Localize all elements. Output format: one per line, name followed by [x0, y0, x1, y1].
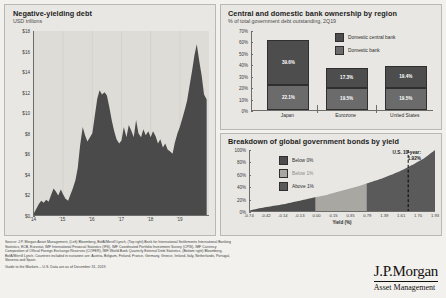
x-axis-tick: 1.39 — [380, 213, 388, 218]
x-axis-tick: 0.79 — [363, 213, 371, 218]
y-axis-tick-mark — [251, 111, 253, 112]
x-axis-tick: -0.74 — [244, 213, 254, 218]
bar-category-label: Japan — [281, 113, 294, 118]
y-axis-tick: $18 — [22, 29, 30, 34]
cum-chart-header: Breakdown of global government bonds by … — [228, 137, 399, 146]
y-axis-tick: 80% — [237, 160, 246, 165]
x-axis-tick: '19 — [177, 217, 183, 222]
y-axis-tick: $14 — [22, 70, 30, 75]
y-axis-tick: 10% — [239, 97, 248, 102]
x-axis-tick: 1.93 — [431, 213, 439, 218]
logo-tagline: Asset Management — [374, 283, 438, 292]
legend-item-domestic-central-bank: Domestic central bank — [335, 33, 395, 42]
x-axis-tick: '14 — [30, 217, 36, 222]
x-axis-tick: '16 — [89, 217, 95, 222]
legend-label: Domestic bank — [348, 48, 380, 53]
source-line: Slovenia and Spain. — [5, 258, 255, 263]
y-axis-tick: 20% — [237, 197, 246, 202]
y-axis-tick: 60% — [237, 172, 246, 177]
bar-category-label: Eurozone — [335, 113, 356, 118]
legend-label: Domestic central bank — [348, 35, 395, 40]
x-axis-tick: -0.42 — [261, 213, 271, 218]
legend-swatch-icon — [335, 46, 344, 55]
y-axis-tick: $8 — [25, 131, 30, 136]
y-axis-tick: 30% — [239, 74, 248, 79]
annotation-line-2: 1.92% — [393, 156, 421, 162]
legend-label: Below 0% — [292, 158, 313, 163]
slide-canvas: Negative-yielding debt USD trillions $0$… — [0, 0, 446, 298]
left-x-axis: '14'15'16'17'18'19 — [33, 217, 209, 227]
bar-segment-domestic-central-bank: 39.6% — [267, 40, 309, 85]
bar-segment-domestic-bank: 19.5% — [326, 88, 368, 110]
y-axis-tick: 100% — [234, 148, 246, 153]
bar-group[interactable]: 19.5%17.3% — [326, 68, 368, 110]
left-plot-area — [33, 31, 209, 216]
y-axis-tick: $2 — [25, 193, 30, 198]
bar-chart-subtitle: % of total government debt outstanding, … — [228, 18, 397, 25]
y-axis-tick: 70% — [239, 29, 248, 34]
source-line: Source: J.P. Morgan Asset Management, (L… — [5, 240, 255, 245]
left-chart-header: Negative-yielding debt USD trillions — [13, 9, 92, 25]
bar-y-axis: 0%10%20%30%40%50%60%70% — [223, 27, 251, 115]
bar-group[interactable]: 22.1%39.6% — [267, 40, 309, 111]
x-axis-tick: '18 — [147, 217, 153, 222]
y-axis-tick: 0% — [241, 109, 248, 114]
x-axis-tick: 1.61 — [397, 213, 405, 218]
y-axis-tick: 40% — [239, 63, 248, 68]
negative-yielding-debt-panel: Negative-yielding debt USD trillions $0$… — [4, 4, 216, 236]
cum-y-axis: 0%20%40%60%80%100% — [222, 146, 249, 216]
bonds-by-yield-panel: Breakdown of global government bonds by … — [220, 133, 442, 236]
x-axis-tick: '15 — [59, 217, 65, 222]
legend-item-below-0: Below 0% — [279, 156, 314, 165]
bar-segment-domestic-bank: 22.1% — [267, 85, 309, 110]
logo-wordmark: J.P.Morgan — [374, 263, 438, 282]
y-axis-tick: 40% — [237, 185, 246, 190]
y-axis-tick: 20% — [239, 86, 248, 91]
bank-ownership-panel: Central and domestic bank ownership by r… — [220, 4, 442, 130]
legend-item-below-1: Below 1% — [279, 169, 314, 178]
bar-segment-domestic-central-bank: 17.3% — [326, 68, 368, 88]
x-axis-tick: 1.70 — [414, 213, 422, 218]
y-axis-tick: $12 — [22, 90, 30, 95]
bar-chart-title: Central and domestic bank ownership by r… — [228, 9, 397, 18]
bar-segment-domestic-central-bank: 19.4% — [385, 66, 427, 88]
x-axis-tick: 0.00 — [313, 213, 321, 218]
axis-separator — [317, 105, 318, 113]
legend-swatch-icon — [335, 33, 344, 42]
cum-chart-title: Breakdown of global government bonds by … — [228, 137, 399, 146]
guide-to-markets-line: Guide to the Markets – U.S. Data are as … — [5, 265, 255, 269]
bar-group[interactable]: 19.5%19.4% — [385, 66, 427, 110]
legend-item-domestic-bank: Domestic bank — [335, 46, 395, 55]
bar-segment-domestic-bank: 19.5% — [385, 88, 427, 110]
x-axis-tick: 0.35 — [346, 213, 354, 218]
legend-swatch-icon — [279, 169, 288, 178]
source-line: Composition of Official Foreign Exchange… — [5, 249, 255, 254]
y-axis-tick: 60% — [239, 40, 248, 45]
legend-item-above-1: Above 1% — [279, 182, 314, 191]
left-y-axis: $0$2$4$6$8$10$12$14$16$18 — [7, 27, 33, 217]
left-chart-subtitle: USD trillions — [13, 18, 92, 25]
bar-chart-header: Central and domestic bank ownership by r… — [228, 9, 397, 25]
legend-label: Below 1% — [292, 171, 313, 176]
y-axis-tick: 50% — [239, 51, 248, 56]
legend-label: Above 1% — [292, 184, 314, 189]
axis-separator — [376, 105, 377, 113]
us-10-year-annotation: U.S. 10-year: 1.92% — [393, 150, 421, 162]
y-axis-tick: $4 — [25, 172, 30, 177]
y-axis-tick: $6 — [25, 152, 30, 157]
negative-debt-area-svg — [34, 31, 209, 215]
bar-chart-legend: Domestic central bank Domestic bank — [335, 33, 395, 59]
legend-swatch-icon — [279, 156, 288, 165]
y-axis-tick: $16 — [22, 49, 30, 54]
left-chart-title: Negative-yielding debt — [13, 9, 92, 18]
cum-chart-legend: Below 0% Below 1% Above 1% — [279, 156, 314, 195]
source-footnote: Source: J.P. Morgan Asset Management, (L… — [5, 240, 255, 269]
legend-swatch-icon — [279, 182, 288, 191]
bar-category-label: United States — [390, 113, 419, 118]
jpmorgan-logo: J.P.Morgan Asset Management — [374, 263, 438, 293]
x-axis-tick: '17 — [118, 217, 124, 222]
cum-x-axis-title: Yield (%) — [332, 220, 351, 225]
y-axis-tick: $10 — [22, 111, 30, 116]
source-line: BofA/Merrill Lynch. Countries included i… — [5, 254, 255, 259]
x-axis-tick: -0.14 — [278, 213, 288, 218]
